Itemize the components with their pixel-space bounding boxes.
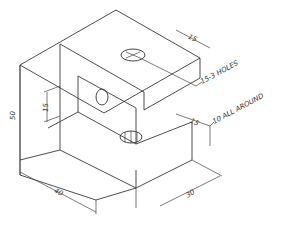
label-15-bottom: 15: [189, 117, 201, 129]
dim-bottom-15: 15: [176, 114, 210, 146]
hole-wall: [96, 89, 108, 105]
label-15-top: 15: [187, 33, 199, 45]
label-30: 30: [185, 188, 197, 200]
label-15-slot: 15: [42, 103, 50, 112]
bottom-flange: [20, 65, 192, 200]
dim-slot-15: 15: [42, 86, 60, 122]
note-thickness: 10 ALL AROUND: [211, 92, 265, 126]
note-holes: 15-3 HOLES: [199, 59, 240, 86]
isometric-drawing: 50 15 40 30 15 15 15-3 HOLES 10: [0, 0, 286, 225]
dim-height-50: 50: [9, 65, 20, 175]
dim-depth-40: 40: [20, 172, 96, 214]
inner-slot: [48, 76, 136, 144]
hole-top: [121, 49, 145, 61]
dim-top-15: 15: [176, 30, 210, 48]
leader-thickness: 10 ALL AROUND: [210, 92, 266, 126]
leader-holes: 15-3 HOLES: [140, 58, 240, 86]
dim-width-30: 30: [136, 160, 222, 208]
label-40: 40: [53, 187, 65, 199]
label-50: 50: [9, 111, 17, 120]
